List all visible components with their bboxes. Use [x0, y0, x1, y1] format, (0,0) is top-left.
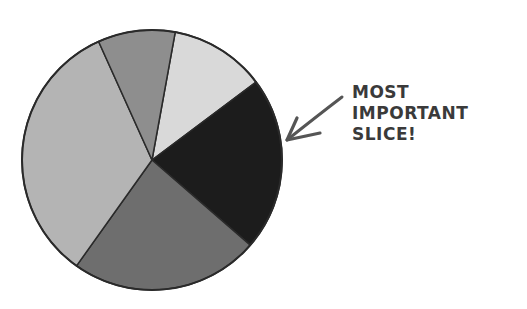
most-important-slice-annotation: MOST IMPORTANT SLICE!	[352, 82, 468, 145]
annotation-line-3: SLICE!	[352, 124, 468, 145]
annotation-line-1: MOST	[352, 82, 468, 103]
pie-chart	[0, 0, 527, 309]
annotation-line-2: IMPORTANT	[352, 103, 468, 124]
arrow-icon	[287, 97, 342, 140]
pie-slices	[22, 30, 282, 290]
